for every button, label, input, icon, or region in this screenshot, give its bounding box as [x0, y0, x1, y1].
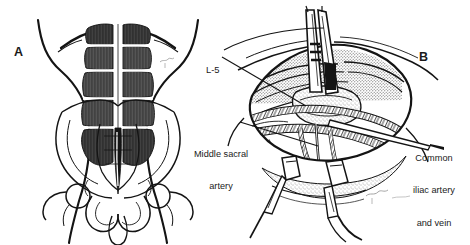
label-middle-sacral-line-2: artery [185, 181, 257, 192]
label-l5-line-1: L-5 [206, 64, 220, 75]
label-common-iliac-line-1: Common [400, 153, 468, 164]
retractor-inferior-left [250, 156, 300, 238]
label-middle-sacral-line-1: Middle sacral [185, 149, 257, 160]
pubic-ramus-left [86, 196, 118, 232]
panel-a-illustration [38, 20, 198, 245]
label-common-iliac-line-3: and vein [400, 218, 468, 229]
pubic-ramus-right [118, 196, 150, 232]
panel-letter-a: A [14, 45, 23, 60]
artist-signature [160, 58, 174, 68]
label-common-iliac: Common iliac artery and vein [400, 131, 468, 245]
label-middle-sacral-artery: Middle sacral artery [185, 127, 257, 214]
label-common-iliac-line-2: iliac artery [400, 185, 468, 196]
panel-letter-b: B [419, 50, 428, 65]
linea-alba [115, 24, 122, 194]
medical-figure: A B L-5 Middle sacral artery Common ilia… [0, 0, 470, 245]
label-l5: L-5 [206, 42, 220, 97]
